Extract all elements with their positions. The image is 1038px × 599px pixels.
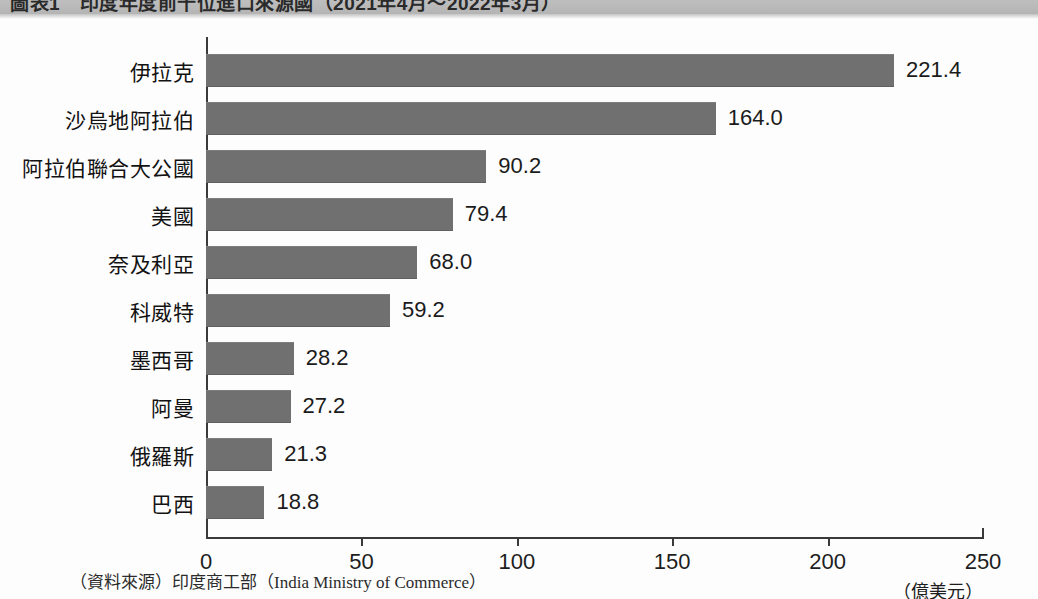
plot-area: 050100150200250 伊拉克221.4沙烏地阿拉伯164.0阿拉伯聯合…: [206, 37, 983, 538]
bar: [206, 198, 453, 231]
category-label: 沙烏地阿拉伯: [0, 104, 194, 134]
bar-row: 墨西哥28.2: [206, 342, 983, 373]
x-axis-cap-right: [982, 528, 984, 538]
bar-value-label: 18.8: [276, 489, 319, 515]
source-prefix: （資料來源）: [70, 572, 172, 592]
x-axis-line: [206, 537, 984, 539]
bar: [206, 294, 390, 327]
bar-row: 俄羅斯21.3: [206, 438, 983, 469]
x-tick-200: [828, 538, 830, 546]
bar: [206, 150, 486, 183]
bar-row: 美國79.4: [206, 198, 983, 229]
category-label: 俄羅斯: [0, 440, 194, 470]
chart-page: 圖表1 印度年度前十位進口來源國（2021年4月～2022年3月） 050100…: [0, 0, 1038, 599]
x-tick-label-200: 200: [809, 549, 846, 575]
category-label: 巴西: [0, 488, 194, 518]
bar-row: 阿拉伯聯合大公國90.2: [206, 150, 983, 181]
category-label: 阿拉伯聯合大公國: [0, 152, 194, 182]
bar: [206, 486, 264, 519]
bar-value-label: 59.2: [402, 297, 445, 323]
category-label: 奈及利亞: [0, 248, 194, 278]
x-tick-label-100: 100: [498, 549, 535, 575]
bar-row: 伊拉克221.4: [206, 54, 983, 85]
bar: [206, 438, 272, 471]
source-agency-en: （India Ministry of Commerce）: [257, 573, 486, 592]
bar-value-label: 164.0: [728, 105, 783, 131]
category-label: 美國: [0, 200, 194, 230]
bar-value-label: 90.2: [498, 153, 541, 179]
bar-row: 阿曼27.2: [206, 390, 983, 421]
bar-row: 奈及利亞68.0: [206, 246, 983, 277]
bar-row: 沙烏地阿拉伯164.0: [206, 102, 983, 133]
bar-value-label: 21.3: [284, 441, 327, 467]
bar-value-label: 27.2: [303, 393, 346, 419]
bar-row: 巴西18.8: [206, 486, 983, 517]
bar: [206, 342, 294, 375]
bar-chart: 050100150200250 伊拉克221.4沙烏地阿拉伯164.0阿拉伯聯合…: [0, 19, 1038, 564]
x-tick-label-250: 250: [965, 549, 1002, 575]
bar: [206, 246, 417, 279]
source-agency-zh: 印度商工部: [172, 572, 257, 592]
bar-row: 科威特59.2: [206, 294, 983, 325]
bar: [206, 390, 291, 423]
category-label: 伊拉克: [0, 56, 194, 86]
source-note: （資料來源）印度商工部（India Ministry of Commerce）: [70, 568, 486, 593]
bar-value-label: 221.4: [906, 57, 961, 83]
title-band: 圖表1 印度年度前十位進口來源國（2021年4月～2022年3月）: [0, 0, 1038, 14]
category-label: 科威特: [0, 296, 194, 326]
page-title: 圖表1 印度年度前十位進口來源國（2021年4月～2022年3月）: [10, 0, 561, 14]
category-label: 阿曼: [0, 392, 194, 422]
bar-value-label: 79.4: [465, 201, 508, 227]
bar-value-label: 28.2: [306, 345, 349, 371]
bar: [206, 54, 894, 87]
x-tick-label-150: 150: [654, 549, 691, 575]
x-axis-cap-left: [206, 528, 208, 538]
x-tick-100: [517, 538, 519, 546]
category-label: 墨西哥: [0, 344, 194, 374]
x-tick-50: [361, 538, 363, 546]
bar: [206, 102, 716, 135]
x-axis-unit-label: （億美元）: [893, 577, 983, 599]
x-tick-150: [672, 538, 674, 546]
bar-value-label: 68.0: [429, 249, 472, 275]
